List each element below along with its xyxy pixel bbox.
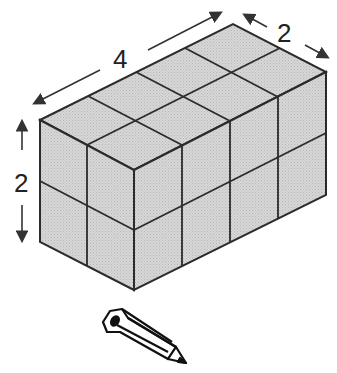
pencil-icon <box>103 309 186 363</box>
length-label: 4 <box>113 46 127 72</box>
width-arrow-left <box>245 15 267 27</box>
width-arrow-right <box>305 45 327 57</box>
diagram: 4 2 2 <box>0 0 337 373</box>
width-label: 2 <box>277 20 291 46</box>
prism-drawing <box>0 0 337 373</box>
height-label: 2 <box>14 170 28 196</box>
